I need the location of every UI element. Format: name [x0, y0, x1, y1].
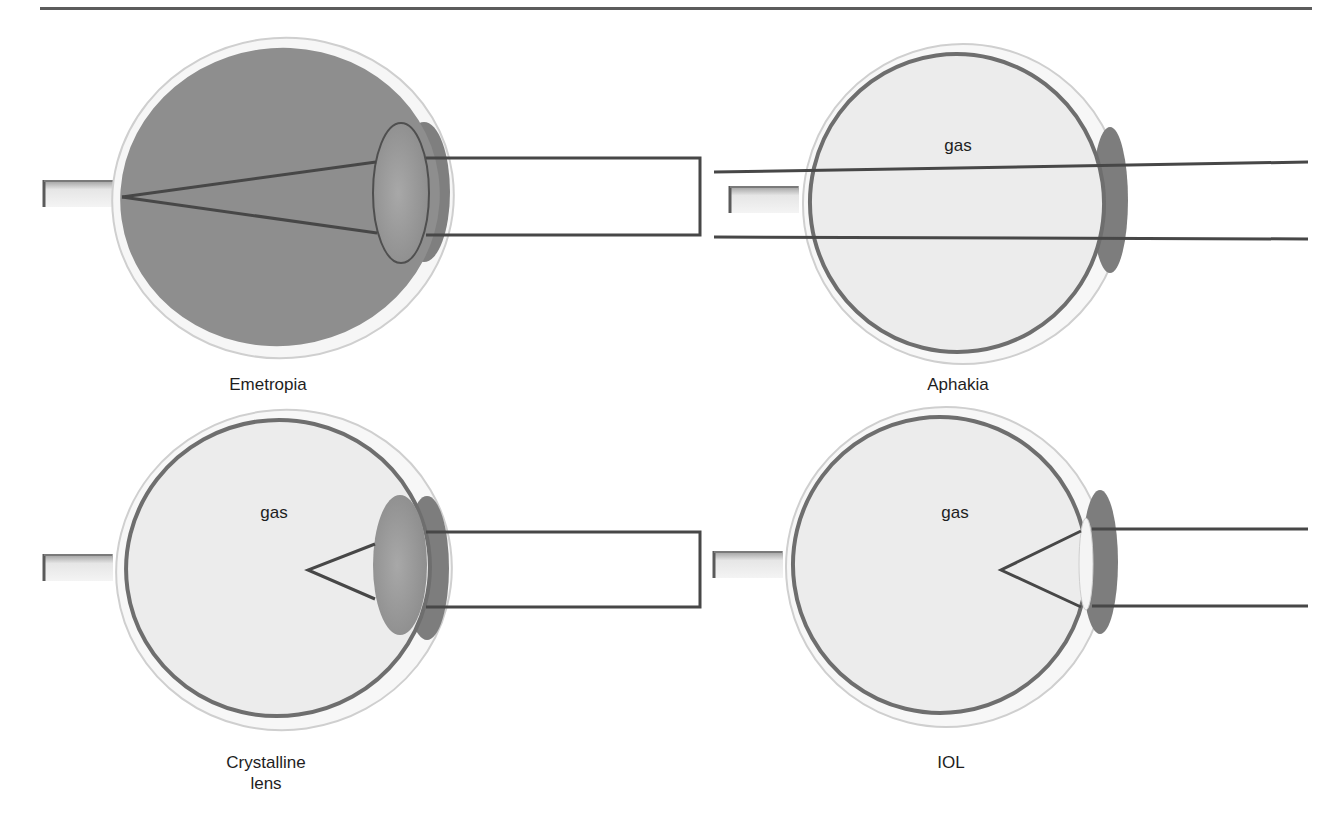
optic-nerve-icon: [43, 180, 115, 207]
caption-emetropia: Emetropia: [229, 374, 306, 395]
crystalline-lens: [373, 123, 429, 263]
panel-crystalline-lens: [43, 388, 700, 752]
optic-nerve-icon: [43, 554, 113, 581]
optic-nerve-icon: [713, 551, 783, 578]
light-rays-incoming: [426, 158, 700, 235]
light-rays-incoming: [1092, 529, 1308, 606]
medium-label-aphakia: gas: [944, 136, 971, 156]
medium-label-crystalline: gas: [260, 503, 287, 523]
caption-iol: IOL: [937, 752, 964, 773]
caption-aphakia: Aphakia: [927, 374, 988, 395]
optic-nerve-icon: [729, 186, 799, 213]
caption-crystalline-lens: Crystalline lens: [226, 752, 305, 794]
medium-label-iol: gas: [941, 503, 968, 523]
eye-diagram: [0, 0, 1340, 829]
light-rays-incoming: [426, 532, 700, 607]
panel-emetropia: [43, 16, 700, 380]
panel-aphakia: [714, 23, 1308, 384]
panel-iol: [713, 386, 1308, 747]
crystalline-lens: [373, 495, 427, 635]
